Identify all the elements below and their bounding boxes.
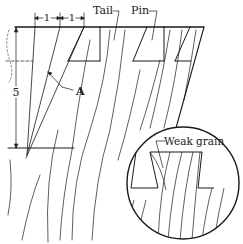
labels: 1 1 Tail Pin 5 A Weak grain [13,4,225,147]
label-pin: Pin [131,4,149,17]
tail-outline [68,27,100,61]
run-dimension [35,13,84,27]
pin-outline-1 [133,27,164,61]
dovetail-diagram: 1 1 Tail Pin 5 A Weak grain [0,0,243,244]
pin-outline-2 [175,27,191,61]
label-weak-grain: Weak grain [164,135,224,147]
leader-pin [149,11,157,40]
label-tail: Tail [93,4,114,17]
label-dim-rise: 5 [13,86,20,99]
label-dim-run-1: 1 [44,12,50,23]
label-dim-run-2: 1 [69,12,75,23]
label-point-a: A [75,85,85,98]
leader-tail [113,11,119,40]
